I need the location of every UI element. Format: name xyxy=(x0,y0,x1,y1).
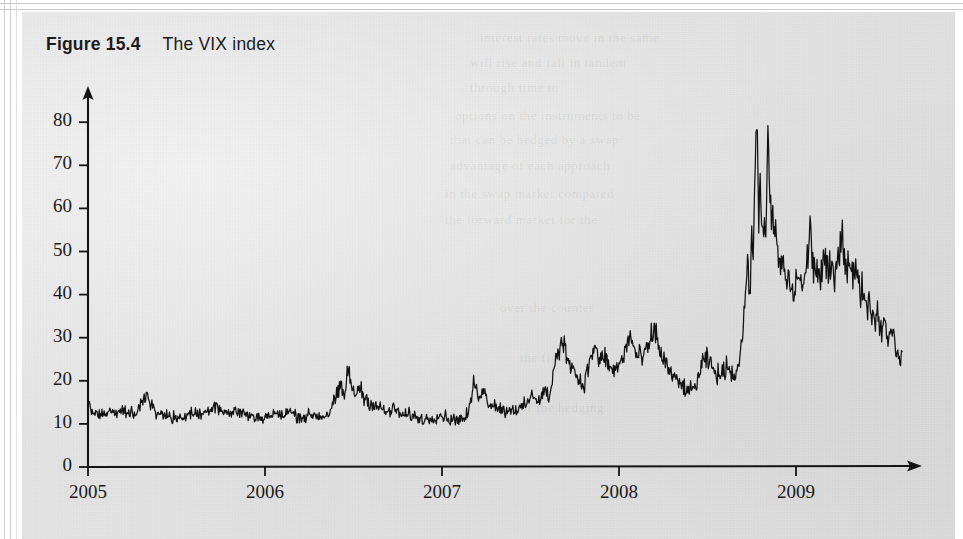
y-axis-tick-label: 60 xyxy=(20,195,72,217)
x-axis-line xyxy=(88,466,912,467)
y-axis-tick-label: 40 xyxy=(20,282,72,304)
y-axis-tick-label: 50 xyxy=(20,239,72,261)
x-axis-tick-label: 2006 xyxy=(220,481,310,503)
y-axis-tick-label: 30 xyxy=(20,325,72,347)
vix-line-chart xyxy=(0,0,963,539)
x-axis-tick-label: 2008 xyxy=(574,481,664,503)
x-axis-ticks xyxy=(88,467,796,476)
y-axis-tick-label: 20 xyxy=(20,368,72,390)
y-axis-ticks xyxy=(79,122,88,467)
y-axis-tick-label: 10 xyxy=(20,411,72,433)
x-axis-tick-label: 2005 xyxy=(43,481,133,503)
y-axis-tick-label: 80 xyxy=(20,109,72,131)
vix-series-line xyxy=(88,126,902,425)
y-axis-tick-label: 0 xyxy=(20,454,72,476)
y-axis-tick-label: 70 xyxy=(20,152,72,174)
x-axis-tick-label: 2009 xyxy=(751,481,841,503)
x-axis-tick-label: 2007 xyxy=(397,481,487,503)
scanned-book-page: interest rates move in the samewill rise… xyxy=(0,0,963,539)
